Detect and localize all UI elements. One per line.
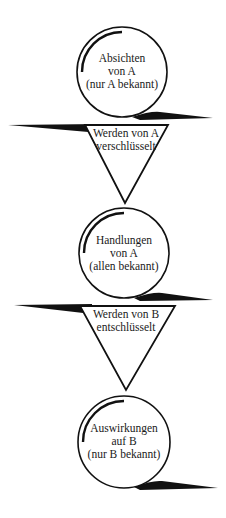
node-label-auswirkungen: Auswirkungen auf B (nur B bekannt) [74, 422, 174, 461]
node-label-handlungen: Handlungen von A (allen bekannt) [74, 234, 174, 273]
label-line: (allen bekannt) [74, 260, 174, 273]
label-line: von A [74, 247, 174, 260]
label-line: Werden von B [80, 308, 172, 321]
process-label-entschluesselt: Werden von B entschlüsselt [80, 308, 172, 334]
label-line: Handlungen [74, 234, 174, 247]
label-line: Absichten [72, 52, 172, 65]
shadow-wedge-right [132, 112, 213, 120]
label-line: entschlüsselt [80, 321, 172, 334]
process-label-verschluesselt: Werden von A verschlüsselt [80, 127, 172, 153]
label-line: Auswirkungen [74, 422, 174, 435]
label-line: auf B [74, 435, 174, 448]
shadow-wedge-right [134, 293, 213, 301]
label-line: (nur B bekannt) [74, 448, 174, 461]
node-label-absichten: Absichten von A (nur A bekannt) [72, 52, 172, 91]
label-line: (nur A bekannt) [72, 78, 172, 91]
label-line: von A [72, 65, 172, 78]
label-line: verschlüsselt [80, 140, 172, 153]
label-line: Werden von A [80, 127, 172, 140]
